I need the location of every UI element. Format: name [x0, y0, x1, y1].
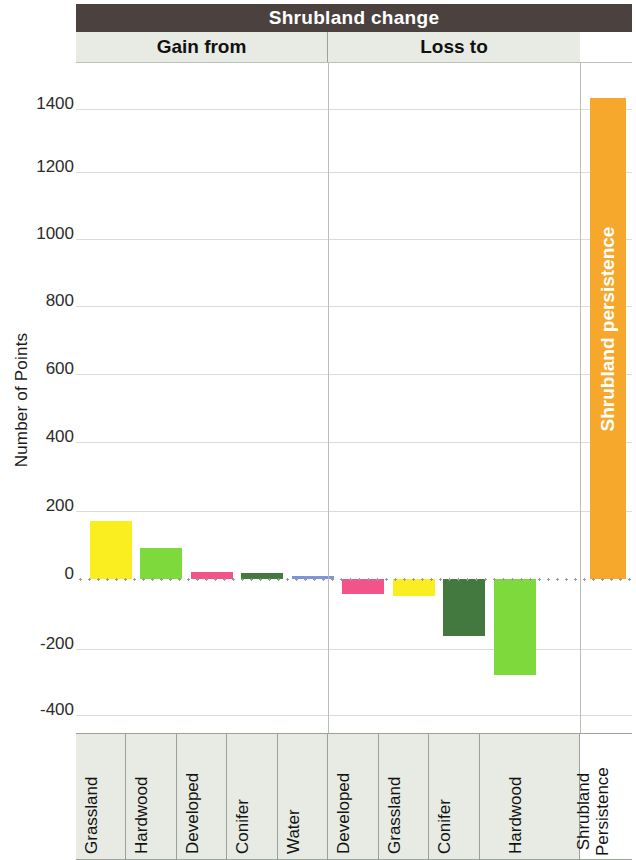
zero-baseline [76, 578, 632, 581]
separator-gain-loss [328, 63, 329, 733]
bar-loss-hardwood[interactable] [494, 579, 536, 675]
gridline-800 [76, 306, 632, 307]
persistence-bar-label: Shrubland persistence [597, 206, 619, 452]
y-tick-600: 600 [12, 359, 74, 379]
category-label-band: Grassland Hardwood Developed Conifer Wat… [76, 733, 632, 860]
category-label: Water [285, 809, 303, 854]
category-shrubland-persistence: Shrubland Persistence [580, 733, 632, 860]
y-tick-400: 400 [12, 427, 74, 447]
section-header-gain-from: Gain from [76, 32, 328, 62]
category-label: Conifer [436, 799, 454, 854]
section-header-band: Gain from Loss to [76, 32, 580, 62]
plot-area: Shrubland persistence [76, 62, 632, 734]
category-loss-developed: Developed [328, 733, 379, 860]
category-gain-hardwood: Hardwood [126, 733, 177, 860]
y-tick-200: 200 [12, 496, 74, 516]
category-loss-hardwood: Hardwood [480, 733, 580, 860]
category-label: Hardwood [133, 777, 151, 855]
gridline-1200 [76, 172, 632, 173]
category-label-line2: Persistence [593, 767, 612, 856]
category-gain-water: Water [278, 733, 328, 860]
gridline-neg400 [76, 715, 632, 716]
section-header-loss-to: Loss to [328, 32, 580, 62]
bar-loss-developed[interactable] [342, 579, 384, 594]
gridline-600 [76, 374, 632, 375]
category-label: Developed [184, 773, 202, 854]
separator-loss-persistence [580, 63, 581, 733]
gridline-neg200 [76, 649, 632, 650]
chart-root: Number of Points 1400 1200 1000 800 600 … [0, 0, 636, 860]
bar-shrubland-persistence[interactable]: Shrubland persistence [590, 98, 626, 579]
bar-gain-hardwood[interactable] [140, 548, 182, 579]
category-label: Hardwood [507, 777, 525, 855]
y-tick-0: 0 [12, 564, 74, 584]
y-tick-neg200: -200 [12, 634, 74, 654]
category-loss-conifer: Conifer [429, 733, 480, 860]
category-label: Conifer [234, 799, 252, 854]
category-loss-grassland: Grassland [379, 733, 429, 860]
y-axis-tick-labels: 1400 1200 1000 800 600 400 200 0 -200 -4… [8, 0, 74, 860]
bar-gain-grassland[interactable] [90, 521, 132, 579]
category-label: Developed [335, 773, 353, 854]
category-label-two-line: Shrubland Persistence [574, 767, 612, 856]
gridline-1400 [76, 109, 632, 110]
chart-frame: Shrubland change Gain from Loss to [76, 4, 632, 860]
gridline-400 [76, 442, 632, 443]
category-gain-conifer: Conifer [227, 733, 278, 860]
gridline-1000 [76, 239, 632, 240]
y-tick-1400: 1400 [12, 94, 74, 114]
bar-loss-conifer[interactable] [443, 579, 485, 636]
y-tick-neg400: -400 [12, 700, 74, 720]
category-label-line1: Shrubland [574, 773, 593, 851]
y-tick-800: 800 [12, 291, 74, 311]
section-header-blank [580, 32, 632, 62]
y-tick-1000: 1000 [12, 224, 74, 244]
bar-loss-grassland[interactable] [393, 579, 435, 596]
chart-title-band: Shrubland change [76, 4, 632, 32]
gridline-200 [76, 511, 632, 512]
category-gain-developed: Developed [177, 733, 227, 860]
category-label: Grassland [83, 777, 101, 854]
category-gain-grassland: Grassland [76, 733, 126, 860]
category-label: Grassland [386, 777, 404, 854]
y-tick-1200: 1200 [12, 157, 74, 177]
